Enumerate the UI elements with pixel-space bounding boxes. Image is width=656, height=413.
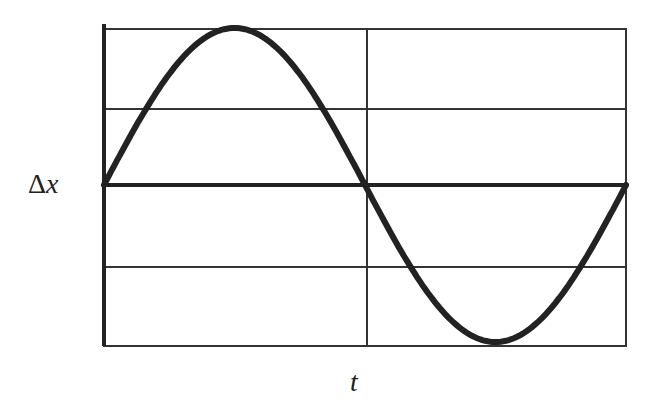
x-axis-label: t [350,366,358,398]
y-axis-label: Δx [28,168,58,200]
sine-wave-diagram [0,0,656,413]
